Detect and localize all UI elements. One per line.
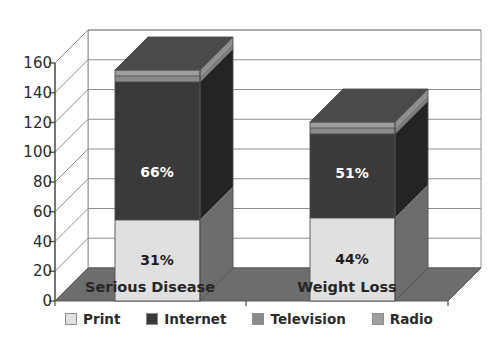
legend-swatch-television-icon xyxy=(252,313,264,325)
chart-legend: Print Internet Television Radio xyxy=(0,311,498,327)
category-label-serious-disease: Serious Disease xyxy=(85,279,215,295)
legend-item-radio[interactable]: Radio xyxy=(372,311,433,327)
bar1-segment-internet-front xyxy=(115,82,200,220)
legend-swatch-radio-icon xyxy=(372,313,384,325)
bar-label-serious-disease-internet: 66% xyxy=(140,164,174,180)
y-axis-labels: 160 140 120 100 80 60 40 20 0 xyxy=(0,0,52,348)
legend-label-radio: Radio xyxy=(390,311,433,327)
x-axis-ticks xyxy=(55,301,448,306)
legend-label-print: Print xyxy=(83,311,120,327)
y-tick-140: 140 xyxy=(6,85,52,100)
bar-label-weight-loss-internet: 51% xyxy=(335,165,369,181)
category-label-weight-loss: Weight Loss xyxy=(297,279,396,295)
legend-label-television: Television xyxy=(270,311,345,327)
chart-3d-scene xyxy=(0,0,498,348)
bar-group-weight-loss[interactable] xyxy=(310,89,428,301)
bar-label-serious-disease-print: 31% xyxy=(140,252,174,268)
y-tick-0: 0 xyxy=(6,294,52,309)
legend-item-television[interactable]: Television xyxy=(252,311,345,327)
legend-item-internet[interactable]: Internet xyxy=(146,311,226,327)
y-tick-40: 40 xyxy=(6,234,52,249)
bar-label-weight-loss-print: 44% xyxy=(335,251,369,267)
bar-group-serious-disease[interactable] xyxy=(115,37,233,301)
legend-label-internet: Internet xyxy=(164,311,226,327)
plot-area: 160 140 120 100 80 60 40 20 0 66% 31% 51… xyxy=(0,0,498,348)
y-tick-120: 120 xyxy=(6,115,52,130)
y-tick-100: 100 xyxy=(6,145,52,160)
bar1-segment-radio-front xyxy=(115,70,200,76)
legend-item-print[interactable]: Print xyxy=(65,311,120,327)
chart-figure: 160 140 120 100 80 60 40 20 0 66% 31% 51… xyxy=(0,0,498,348)
y-tick-80: 80 xyxy=(6,175,52,190)
bar2-segment-radio-front xyxy=(310,122,395,128)
bar2-segment-television-front xyxy=(310,128,395,134)
y-tick-60: 60 xyxy=(6,204,52,219)
legend-swatch-print-icon xyxy=(65,313,77,325)
legend-swatch-internet-icon xyxy=(146,313,158,325)
bar1-segment-television-front xyxy=(115,76,200,82)
y-tick-20: 20 xyxy=(6,264,52,279)
y-tick-160: 160 xyxy=(6,56,52,71)
